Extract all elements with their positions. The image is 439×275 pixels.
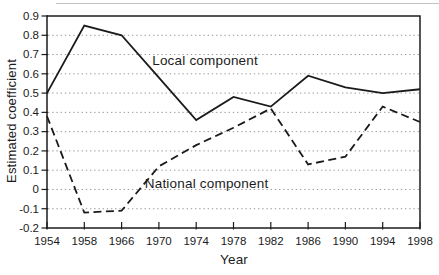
- y-tick-label: 0.2: [23, 145, 39, 157]
- x-tick-label: 1998: [407, 235, 433, 247]
- series-annotation-label: Local component: [152, 53, 258, 68]
- y-tick-label: 0.3: [23, 125, 39, 137]
- series-line-dashed: [47, 107, 420, 213]
- x-tick-label: 1986: [295, 235, 321, 247]
- y-tick-label: 0.4: [23, 106, 40, 118]
- x-tick-label: 1954: [34, 235, 60, 247]
- x-tick-label: 1970: [146, 235, 172, 247]
- plot-frame: [47, 16, 420, 228]
- y-tick-label: -0.1: [19, 203, 39, 215]
- y-tick-label: 0.8: [23, 29, 39, 41]
- x-tick-label: 1982: [258, 235, 284, 247]
- y-tick-label: 0.7: [23, 48, 39, 60]
- x-tick-label: 1966: [109, 235, 135, 247]
- y-tick-label: 0: [33, 183, 39, 195]
- y-tick-label: 0.6: [23, 68, 39, 80]
- y-tick-label: 0.5: [23, 87, 39, 99]
- y-tick-label: 0.9: [23, 10, 39, 22]
- x-tick-label: 1974: [183, 235, 209, 247]
- series-line-solid: [47, 26, 420, 120]
- chart-svg: 0.90.80.70.60.50.40.30.20.10-0.1-0.21954…: [0, 0, 439, 275]
- x-axis-title: Year: [220, 252, 248, 267]
- y-tick-label: 0.1: [23, 164, 39, 176]
- y-axis-title: Estimated coefficient: [4, 59, 19, 183]
- x-tick-label: 1958: [72, 235, 98, 247]
- x-tick-label: 1994: [370, 235, 396, 247]
- series-annotation-label: National component: [145, 176, 269, 191]
- x-tick-label: 1978: [221, 235, 247, 247]
- x-tick-label: 1990: [333, 235, 359, 247]
- figure: 0.90.80.70.60.50.40.30.20.10-0.1-0.21954…: [0, 0, 439, 275]
- y-tick-label: -0.2: [19, 222, 39, 234]
